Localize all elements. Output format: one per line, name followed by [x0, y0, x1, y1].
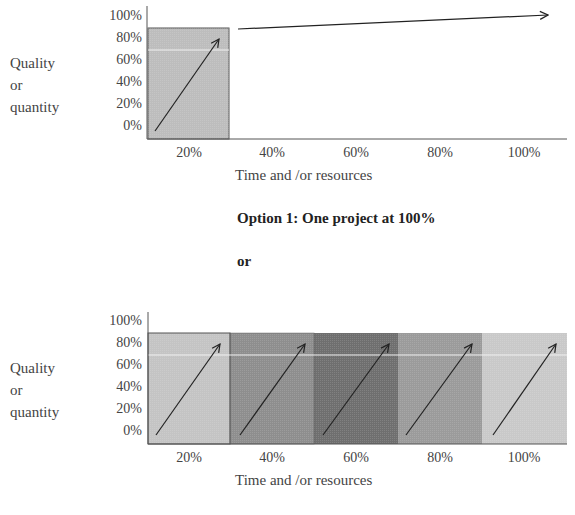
top-long-arrow	[238, 15, 548, 29]
diagram-graphics	[0, 0, 575, 515]
bottom-plot	[148, 312, 567, 444]
top-plot	[147, 6, 567, 139]
